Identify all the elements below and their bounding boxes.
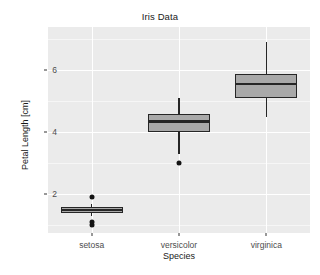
x-tick-label-setosa: setosa [79, 240, 104, 250]
x-tick-label-virginica: virginica [251, 240, 282, 250]
gridline-x-major [92, 27, 93, 233]
y-tick-mark [44, 194, 47, 195]
median-line-setosa [61, 209, 123, 211]
whisker-upper [178, 98, 179, 113]
outlier-point [89, 220, 94, 225]
chart-title: Iris Data [0, 11, 320, 22]
outlier-point [89, 195, 94, 200]
whisker-lower [178, 132, 179, 154]
y-axis-title: Petal Length [cm] [20, 32, 30, 238]
y-tick-label: 6 [52, 65, 57, 75]
x-tick-mark [91, 233, 92, 236]
y-tick-mark [44, 132, 47, 133]
whisker-lower [91, 213, 92, 216]
outlier-point [177, 161, 182, 166]
median-line-virginica [235, 83, 297, 85]
x-tick-label-versicolor: versicolor [161, 240, 197, 250]
box-versicolor [148, 114, 210, 133]
box-virginica [235, 74, 297, 98]
x-tick-mark [266, 233, 267, 236]
median-line-versicolor [148, 120, 210, 122]
y-tick-label: 4 [52, 127, 57, 137]
y-tick-mark [44, 70, 47, 71]
x-tick-mark [179, 233, 180, 236]
plot-panel [48, 27, 310, 233]
boxplot-figure: Iris Data 246 setosaversicolorvirginica … [0, 0, 320, 275]
whisker-upper [266, 42, 267, 74]
y-tick-label: 2 [52, 189, 57, 199]
whisker-lower [266, 98, 267, 117]
x-axis-title: Species [48, 251, 310, 261]
